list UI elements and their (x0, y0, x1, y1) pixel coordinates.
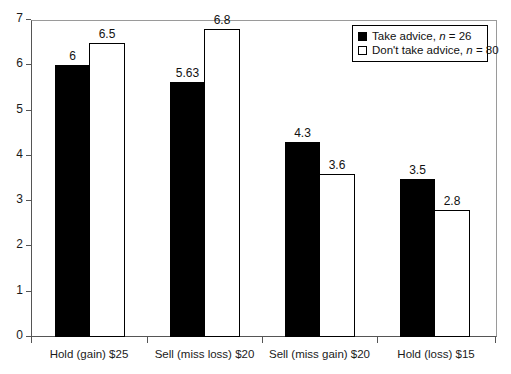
bar-series-0-category-0[interactable]: 6 (55, 65, 90, 337)
bar-series-0-category-1[interactable]: 5.63 (170, 82, 205, 337)
bar-series-0-category-2[interactable]: 4.3 (285, 142, 320, 337)
y-tick-label: 0 (16, 329, 23, 341)
x-tick-mark (147, 337, 148, 343)
legend-item-take-advice[interactable]: Take advice, n = 26 (358, 29, 482, 43)
bar-value-label: 4.3 (294, 127, 311, 140)
legend-item-dont-take-advice[interactable]: Don't take advice, n = 80 (358, 43, 482, 57)
x-tick-mark (377, 337, 378, 343)
y-tick-label: 2 (16, 238, 23, 250)
legend-swatch-hollow-icon (358, 46, 367, 55)
bar-value-label: 2.8 (444, 195, 461, 208)
bar-value-label: 6.5 (99, 28, 116, 41)
y-tick-label: 4 (16, 148, 23, 160)
x-axis-label-1: Sell (miss loss) $20 (147, 347, 262, 361)
legend-swatch-filled-icon (358, 32, 367, 41)
legend-label-0: Take advice, n = 26 (372, 30, 471, 43)
bar-value-label: 6 (69, 50, 76, 63)
x-axis-label-2: Sell (miss gain) $20 (262, 347, 377, 361)
legend-label-0-prefix: Take advice, (372, 30, 436, 42)
y-tick-label: 3 (16, 193, 23, 205)
y-axis: 7 6 5 4 3 2 1 0 (0, 0, 31, 374)
bar-series-0-category-3[interactable]: 3.5 (400, 179, 435, 338)
x-tick-mark (495, 337, 496, 343)
legend-label-1: Don't take advice, n = 80 (372, 44, 499, 57)
x-tick-mark (262, 337, 263, 343)
bar-value-label: 5.63 (176, 67, 199, 80)
bar-value-label: 3.5 (409, 164, 426, 177)
bars-layer: 6 6.5 5.63 6.8 4.3 3.6 3.5 2.8 (31, 20, 497, 337)
y-tick-label: 7 (16, 12, 23, 24)
legend-label-0-suffix: = 26 (449, 30, 472, 42)
x-tick-mark (31, 337, 32, 343)
bar-series-1-category-0[interactable]: 6.5 (89, 43, 125, 337)
legend-label-1-italic: n (466, 44, 472, 56)
legend-label-1-prefix: Don't take advice, (372, 44, 463, 56)
x-axis-label-3: Hold (loss) $15 (377, 347, 495, 361)
bar-value-label: 6.8 (214, 14, 231, 27)
bar-series-1-category-1[interactable]: 6.8 (204, 29, 240, 337)
bar-series-1-category-2[interactable]: 3.6 (319, 174, 355, 337)
bar-chart: 7 6 5 4 3 2 1 0 (0, 0, 511, 374)
legend-label-0-italic: n (439, 30, 445, 42)
y-tick-label: 5 (16, 103, 23, 115)
bar-value-label: 3.6 (329, 159, 346, 172)
x-axis: Hold (gain) $25 Sell (miss loss) $20 Sel… (31, 337, 497, 374)
x-axis-label-0: Hold (gain) $25 (31, 347, 147, 361)
y-tick-label: 6 (16, 57, 23, 69)
legend-label-1-suffix: = 80 (476, 44, 499, 56)
y-tick-label: 1 (16, 284, 23, 296)
bar-series-1-category-3[interactable]: 2.8 (434, 210, 470, 337)
legend: Take advice, n = 26 Don't take advice, n… (352, 25, 488, 62)
